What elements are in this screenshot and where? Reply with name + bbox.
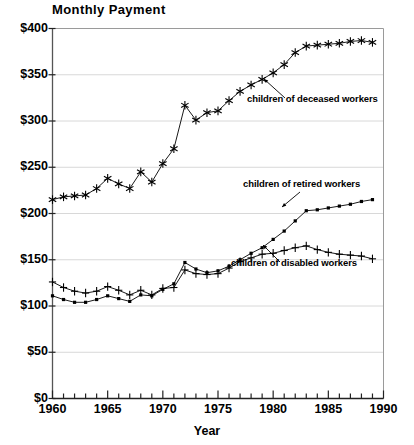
plot-area bbox=[0, 0, 414, 445]
annotation-deceased-workers: children of deceased workers bbox=[247, 93, 378, 104]
y-tick-200: $200 bbox=[0, 206, 48, 220]
y-tick-400: $400 bbox=[0, 21, 48, 35]
annotation-disabled-workers: children of disabled workers bbox=[231, 257, 357, 268]
x-axis-title: Year bbox=[0, 424, 414, 438]
x-tick-1985: 1985 bbox=[306, 402, 350, 416]
x-tick-1970: 1970 bbox=[141, 402, 185, 416]
annotation-retired-workers: children of retired workers bbox=[243, 178, 360, 189]
chart-container: Monthly Payment $0$50$100$150$200$250$30… bbox=[0, 0, 414, 445]
x-tick-1990: 1990 bbox=[362, 402, 406, 416]
annotation-leader-line bbox=[282, 192, 300, 207]
y-tick-350: $350 bbox=[0, 67, 48, 81]
x-tick-1965: 1965 bbox=[86, 402, 130, 416]
x-tick-1980: 1980 bbox=[251, 402, 295, 416]
y-tick-150: $150 bbox=[0, 252, 48, 266]
x-tick-1975: 1975 bbox=[196, 402, 240, 416]
x-tick-1960: 1960 bbox=[31, 402, 75, 416]
y-tick-250: $250 bbox=[0, 159, 48, 173]
y-tick-100: $100 bbox=[0, 298, 48, 312]
y-tick-300: $300 bbox=[0, 113, 48, 127]
y-tick-50: $50 bbox=[0, 344, 48, 358]
series-children-of-disabled-workers bbox=[49, 242, 376, 299]
